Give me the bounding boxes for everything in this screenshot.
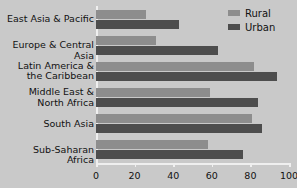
bar-urban [96,124,262,133]
tick-label: 20 [123,170,147,181]
tick-label: 40 [161,170,185,181]
category-label-line: Sub-Saharan Africa [4,145,94,166]
category-label-line: Europe & Central Asia [4,40,94,61]
tick-mark [250,163,252,167]
category-label-line: East Asia & Pacific [4,14,94,25]
category-label-line: Middle East & [4,87,94,98]
bar-urban [96,150,243,159]
category-label-line: South Asia [4,119,94,130]
category-label: Middle East &North Africa [4,87,94,108]
bar-urban [96,72,277,81]
category-label: Europe & Central Asia [4,40,94,61]
bar-urban [96,98,258,107]
category-label-line: the Caribbean [4,71,94,82]
category-label-line: North Africa [4,98,94,109]
tick-mark [289,163,291,167]
tick-mark [173,163,175,167]
bar-rural [96,88,210,97]
tick-label: 60 [200,170,224,181]
bar-rural [96,10,146,19]
bar-rural [96,36,156,45]
category-label: South Asia [4,119,94,130]
category-label: Latin America &the Caribbean [4,61,94,82]
tick-mark [212,163,214,167]
plot-area [96,6,289,163]
tick-mark [135,163,137,167]
category-label: East Asia & Pacific [4,14,94,25]
bar-rural [96,114,252,123]
bar-urban [96,46,218,55]
bar-rural [96,140,208,149]
tick-label: 0 [84,170,108,181]
tick-label: 80 [238,170,262,181]
category-label: Sub-Saharan Africa [4,145,94,166]
value-axis-line [96,163,289,165]
bar-chart: Rural Urban East Asia & PacificEurope & … [0,0,297,188]
bar-urban [96,20,179,29]
tick-label: 100 [277,170,297,181]
bar-rural [96,62,254,71]
tick-mark [96,163,98,167]
